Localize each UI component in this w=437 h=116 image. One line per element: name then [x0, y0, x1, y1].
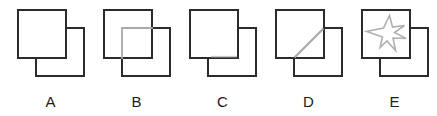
figure-option-d[interactable]: [266, 0, 351, 90]
option-label-row: A B C D E: [0, 88, 437, 116]
figure-row: [0, 0, 437, 90]
front-square-a: [18, 10, 66, 58]
figure-option-e[interactable]: [352, 0, 437, 90]
figure-d-drawing: [266, 0, 351, 90]
figure-b-drawing: [94, 0, 179, 90]
option-label-c: C: [180, 92, 265, 112]
option-label-a: A: [8, 92, 93, 112]
option-label-e: E: [352, 92, 437, 112]
front-square-e: [362, 10, 410, 58]
front-square-b: [104, 10, 152, 58]
option-label-b: B: [94, 92, 179, 112]
figure-e-drawing: [352, 0, 437, 90]
figure-a-drawing: [8, 0, 93, 90]
figure-sheet: A B C D E: [0, 0, 437, 116]
figure-option-b[interactable]: [94, 0, 179, 90]
figure-option-a[interactable]: [8, 0, 93, 90]
option-label-d: D: [266, 92, 351, 112]
figure-c-drawing: [180, 0, 265, 90]
figure-option-c[interactable]: [180, 0, 265, 90]
front-square-c: [190, 10, 238, 58]
